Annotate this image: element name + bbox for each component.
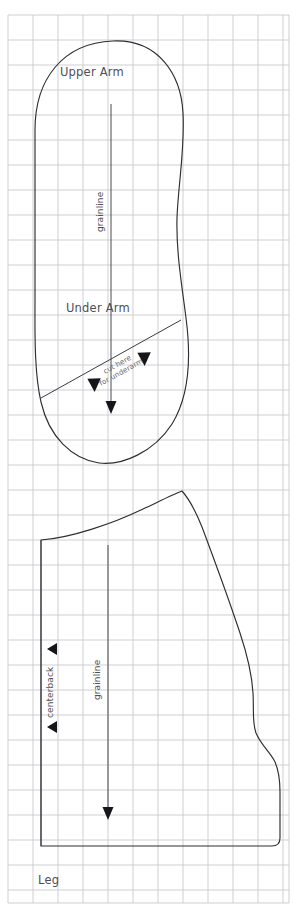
leg-outline <box>41 491 280 846</box>
centerback-label: centerback <box>45 666 55 718</box>
background-grid <box>8 15 289 903</box>
upper-arm-label: Upper Arm <box>60 65 124 79</box>
leg-grainline-arrow-icon <box>103 807 114 820</box>
pattern-drawing: Upper Arm Under Arm grainline cut here f… <box>0 0 307 916</box>
centerback-marker-triangle-icon <box>47 643 57 655</box>
arm-grainline-arrow-icon <box>106 401 117 414</box>
centerback-marker-triangle-icon <box>47 721 57 733</box>
arm-grainline-label: grainline <box>95 191 105 232</box>
pattern-sheet: Upper Arm Under Arm grainline cut here f… <box>0 0 307 916</box>
leg-piece: centerback grainline Leg <box>38 491 280 887</box>
leg-grainline-label: grainline <box>92 659 102 700</box>
leg-label: Leg <box>38 873 59 887</box>
under-arm-label: Under Arm <box>66 301 130 315</box>
